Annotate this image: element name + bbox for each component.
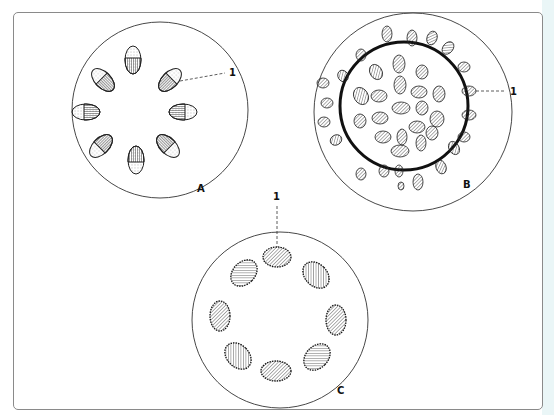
callout-a: 1 (229, 67, 236, 78)
callout-b: 1 (510, 86, 517, 97)
panel-b: 1 B (314, 13, 517, 211)
panel-c: 1 C (192, 191, 368, 408)
label-a: A (197, 183, 205, 194)
label-c: C (337, 385, 344, 396)
diagram-canvas: 1 A 1 (0, 0, 554, 415)
callout-c: 1 (273, 191, 280, 202)
label-b: B (463, 179, 471, 190)
panel-a: 1 A (72, 22, 248, 198)
